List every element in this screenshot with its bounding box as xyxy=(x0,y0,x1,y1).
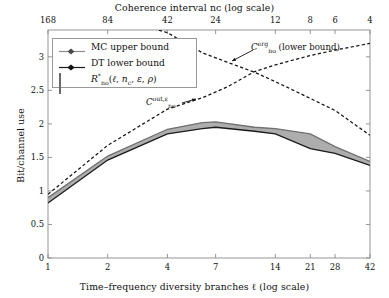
legend-line-sample-dt xyxy=(58,58,86,69)
legend-item-mc[interactable]: MC upper bound xyxy=(53,39,196,55)
legend-line-sample-mc xyxy=(58,42,86,53)
y-tick-label-0: 0 xyxy=(16,253,44,263)
legend[interactable]: MC upper bound DT lower bound R*no(ℓ, nc… xyxy=(52,38,197,88)
annotation-erg: Cergno (lower bound) xyxy=(251,42,340,52)
bottom-tick-label-3: 7 xyxy=(196,262,236,272)
top-tick-label-7: 4 xyxy=(350,15,389,25)
y-tick-label-4: 2 xyxy=(16,119,44,129)
legend-item-dt[interactable]: DT lower bound xyxy=(53,55,196,71)
bottom-tick-label-2: 4 xyxy=(147,262,187,272)
y-tick-label-3: 1.5 xyxy=(16,152,44,162)
top-tick-label-2: 42 xyxy=(147,15,187,25)
bottom-tick-label-0: 1 xyxy=(28,262,68,272)
legend-label-mc: MC upper bound xyxy=(91,42,169,52)
bottom-tick-label-1: 2 xyxy=(88,262,128,272)
bottom-tick-label-7: 42 xyxy=(350,262,389,272)
y-tick-label-1: 0.5 xyxy=(16,219,44,229)
y-tick-label-5: 2.5 xyxy=(16,85,44,95)
legend-patch-sample-region xyxy=(58,74,86,85)
top-tick-label-1: 84 xyxy=(88,15,128,25)
top-tick-label-3: 24 xyxy=(196,15,236,25)
legend-label-region: R*no(ℓ, nc, ε, ρ) xyxy=(91,74,157,84)
legend-label-dt: DT lower bound xyxy=(91,58,165,68)
annotation-out: Cout,εno xyxy=(146,97,176,107)
y-tick-label-2: 1 xyxy=(16,186,44,196)
uncertainty-band xyxy=(48,122,370,203)
legend-item-region[interactable]: R*no(ℓ, nc, ε, ρ) xyxy=(53,71,196,87)
figure-container: Coherence interval nᴄ (log scale) Time–f… xyxy=(0,0,389,298)
y-tick-label-6: 3 xyxy=(16,52,44,62)
data-series xyxy=(48,0,370,203)
top-tick-label-0: 168 xyxy=(28,15,68,25)
